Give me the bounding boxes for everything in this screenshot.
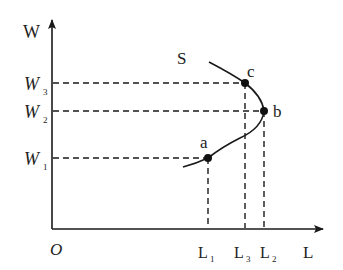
x-tick-l3: L 3 bbox=[234, 244, 251, 264]
svg-text:3: 3 bbox=[43, 87, 48, 97]
x-tick-l1: L 1 bbox=[198, 244, 215, 264]
y-tick-w3: W 3 bbox=[24, 74, 48, 97]
svg-text:L: L bbox=[234, 244, 244, 261]
point-a-label: a bbox=[200, 133, 208, 152]
point-b bbox=[260, 107, 268, 115]
curve-label: S bbox=[177, 49, 186, 68]
svg-text:W: W bbox=[24, 102, 41, 122]
y-tick-w2: W 2 bbox=[24, 102, 48, 125]
svg-text:2: 2 bbox=[43, 115, 48, 125]
svg-text:1: 1 bbox=[43, 162, 48, 172]
svg-text:L: L bbox=[198, 244, 208, 261]
svg-text:W: W bbox=[24, 74, 41, 94]
svg-text:2: 2 bbox=[272, 254, 277, 264]
svg-text:W: W bbox=[24, 149, 41, 169]
point-a bbox=[204, 154, 212, 162]
svg-text:3: 3 bbox=[246, 254, 251, 264]
origin-label: O bbox=[50, 240, 62, 259]
svg-text:L: L bbox=[260, 244, 270, 261]
supply-curve-diagram: W L O S c b a W 3 W 2 W 1 L 1 L 3 L bbox=[0, 0, 343, 270]
y-axis-label: W bbox=[23, 22, 40, 42]
point-c-label: c bbox=[247, 62, 255, 81]
x-tick-l2: L 2 bbox=[260, 244, 277, 264]
y-tick-w1: W 1 bbox=[24, 149, 48, 172]
point-b-label: b bbox=[273, 102, 282, 121]
x-axis-label: L bbox=[303, 243, 313, 262]
svg-text:1: 1 bbox=[210, 254, 215, 264]
